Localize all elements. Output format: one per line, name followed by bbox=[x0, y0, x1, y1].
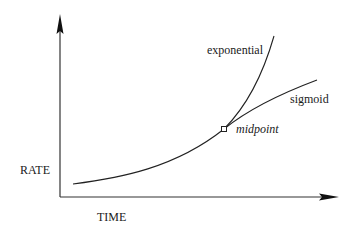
midpoint-label: midpoint bbox=[236, 122, 279, 137]
shared-growth-curve bbox=[73, 129, 224, 184]
x-axis-arrow-icon bbox=[319, 194, 339, 201]
y-axis-arrow-icon bbox=[57, 14, 64, 34]
growth-diagram bbox=[0, 0, 357, 235]
midpoint-marker bbox=[222, 127, 227, 132]
sigmoid-label: sigmoid bbox=[290, 92, 329, 107]
x-axis-label: TIME bbox=[97, 210, 126, 225]
y-axis-label: RATE bbox=[20, 163, 50, 178]
exponential-label: exponential bbox=[207, 43, 263, 58]
